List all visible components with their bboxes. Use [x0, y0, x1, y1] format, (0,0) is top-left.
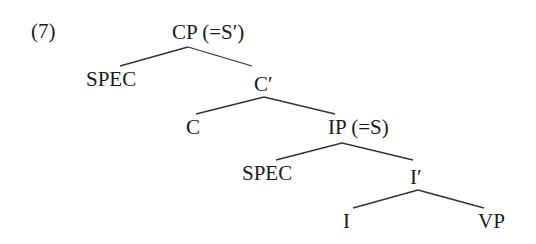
node-c: C	[186, 117, 200, 138]
node-vp: VP	[478, 211, 505, 232]
node-c-bar: C′	[254, 74, 273, 95]
node-spec-ip: SPEC	[242, 163, 292, 184]
edge-cbar-c	[196, 97, 264, 114]
node-cp: CP (=S′)	[172, 22, 244, 43]
edge-ip-ibar	[342, 143, 413, 160]
edge-ibar-vp	[418, 190, 484, 208]
node-spec-cp: SPEC	[86, 69, 136, 90]
node-ip: IP (=S)	[328, 117, 389, 138]
example-number: (7)	[31, 21, 56, 42]
edge-cp-cbar	[188, 47, 252, 66]
edge-cp-spec	[120, 47, 188, 66]
edge-ip-spec	[276, 143, 342, 160]
edge-ibar-i	[353, 190, 418, 208]
node-i: I	[343, 211, 350, 232]
node-i-bar: I′	[410, 167, 422, 188]
tree-edges	[0, 0, 536, 244]
edge-cbar-ip	[264, 97, 335, 114]
syntax-tree-diagram: (7) CP (=S′) SPEC C′ C IP (=S) SPEC I′ I…	[0, 0, 536, 244]
